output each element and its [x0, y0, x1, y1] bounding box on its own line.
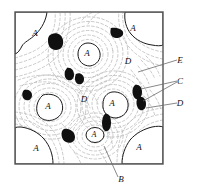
callout-label-c: C [177, 76, 184, 86]
precipitate-8 [102, 114, 111, 131]
micrograph-schematic: A A A A A A A A D D E C D B [0, 0, 200, 187]
region-label-a-bottom-right: A [135, 142, 142, 152]
region-label-d-center: D [80, 94, 88, 104]
region-label-a-upper-middle: A [83, 48, 90, 58]
callout-label-d: D [176, 98, 184, 108]
callout-label-e: E [176, 55, 183, 65]
region-label-a-bottom-left: A [32, 143, 39, 153]
region-label-a-bottom-center: A [91, 130, 97, 139]
region-label-a-top-left: A [31, 28, 38, 38]
region-label-a-mid-left: A [44, 101, 51, 111]
region-label-a-top-right: A [129, 23, 136, 33]
region-label-a-mid-right: A [108, 98, 115, 108]
region-label-d-upper-right: D [124, 56, 132, 66]
callout-label-b: B [118, 174, 124, 184]
figure-canvas: A A A A A A A A D D E C D B [0, 0, 200, 187]
